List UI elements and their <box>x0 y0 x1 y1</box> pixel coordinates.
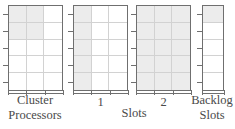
box-caption-cluster-processors: ClusterProcessors <box>0 93 72 122</box>
grid-cell-filled <box>155 23 173 40</box>
grid-cell-filled <box>137 6 155 23</box>
grid-cell-empty <box>109 56 127 73</box>
box-caption-backlog-slots: BacklogSlots <box>182 93 235 122</box>
y-axis-tick <box>131 14 136 15</box>
grid-cell-filled <box>155 73 173 90</box>
grid-cell-filled <box>172 40 190 57</box>
grid-cell-filled <box>9 6 27 23</box>
grid-box-slots-2 <box>136 5 191 91</box>
grid-cell-empty <box>44 23 62 40</box>
grid-cell-filled <box>74 23 92 40</box>
grid-cell-empty <box>109 23 127 40</box>
y-axis-tick <box>68 65 73 66</box>
box-caption-line-2: Processors <box>0 108 72 123</box>
grid-cell-empty <box>109 6 127 23</box>
y-axis-tick <box>131 82 136 83</box>
y-axis-tick <box>197 48 202 49</box>
grid-cell-filled <box>74 73 92 90</box>
x-axis-tick <box>128 90 129 95</box>
grid-cell-empty <box>44 56 62 73</box>
grid-cell-empty <box>27 56 45 73</box>
grid-cell-filled <box>74 56 92 73</box>
y-axis-tick <box>68 82 73 83</box>
grid-cell-filled <box>27 6 45 23</box>
grid-cell-empty <box>203 40 223 57</box>
grid-cell-filled <box>137 73 155 90</box>
y-axis-tick <box>68 14 73 15</box>
grid-cell-empty <box>203 73 223 90</box>
grid-cell-filled <box>27 23 45 40</box>
grid-cell-empty <box>92 6 110 23</box>
y-axis-tick <box>197 14 202 15</box>
grid-cell-empty <box>9 56 27 73</box>
grid-cell-empty <box>92 56 110 73</box>
grid-cell-empty <box>44 40 62 57</box>
y-axis-tick <box>197 82 202 83</box>
y-axis-tick <box>3 48 8 49</box>
grid-cell-filled <box>155 6 173 23</box>
grid-cell-empty <box>92 73 110 90</box>
y-axis-tick <box>131 31 136 32</box>
grid-cell-filled <box>172 56 190 73</box>
grid-cell-empty <box>92 40 110 57</box>
y-axis-tick <box>131 65 136 66</box>
x-axis-tick <box>110 90 111 95</box>
box-caption-line-1: Backlog <box>182 93 235 108</box>
grid-cell-filled <box>137 56 155 73</box>
grid-cell-filled <box>137 23 155 40</box>
grid-cell-empty <box>203 23 223 40</box>
grid-cell-empty <box>27 40 45 57</box>
y-axis-tick <box>3 65 8 66</box>
y-axis-tick <box>68 31 73 32</box>
y-axis-tick <box>3 14 8 15</box>
grid-cell-empty <box>92 23 110 40</box>
x-tick-label-slots-1: 1 <box>86 96 116 109</box>
grid-cell-empty <box>109 40 127 57</box>
grid-box-cluster-processors <box>8 5 63 91</box>
y-axis-tick <box>131 48 136 49</box>
y-axis-tick <box>3 31 8 32</box>
grid-cell-empty <box>109 73 127 90</box>
grid-box-slots-1 <box>73 5 128 91</box>
box-caption-line-1: Cluster <box>0 93 72 108</box>
grid-cell-empty <box>44 6 62 23</box>
x-axis-tick <box>136 90 137 95</box>
grid-cell-filled <box>203 6 223 23</box>
resource-allocation-diagram: 12ClusterProcessorsBacklogSlotsSlots <box>0 0 235 129</box>
grid-cell-filled <box>137 40 155 57</box>
x-axis-tick <box>73 90 74 95</box>
y-axis-tick <box>197 65 202 66</box>
grid-cell-filled <box>155 56 173 73</box>
x-axis-tick <box>91 90 92 95</box>
grid-cell-filled <box>74 40 92 57</box>
grid-cell-empty <box>27 73 45 90</box>
box-caption-line-2: Slots <box>182 108 235 123</box>
y-axis-tick <box>197 31 202 32</box>
y-axis-tick <box>3 82 8 83</box>
grid-cell-filled <box>172 6 190 23</box>
grid-cell-empty <box>44 73 62 90</box>
grid-cell-filled <box>172 23 190 40</box>
x-axis-tick <box>154 90 155 95</box>
grid-cell-filled <box>9 23 27 40</box>
grid-cell-empty <box>203 56 223 73</box>
x-axis-label: Slots <box>112 106 156 120</box>
grid-cell-filled <box>172 73 190 90</box>
grid-cell-filled <box>74 6 92 23</box>
grid-cell-filled <box>155 40 173 57</box>
grid-cell-empty <box>9 73 27 90</box>
x-axis-tick <box>173 90 174 95</box>
y-axis-tick <box>68 48 73 49</box>
grid-cell-empty <box>9 40 27 57</box>
grid-box-backlog-slots <box>202 5 224 91</box>
